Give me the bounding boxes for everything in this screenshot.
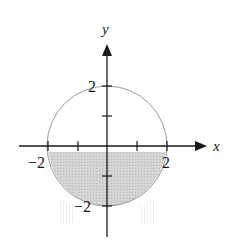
x-axis-label: x (212, 138, 220, 154)
x-tick-label-left: −2 (28, 154, 45, 171)
graph-figure: y x 2 −2 −2 2 (0, 0, 237, 251)
y-tick-label-top: 2 (88, 78, 96, 95)
y-axis-label: y (100, 21, 109, 37)
x-tick-label-right: 2 (162, 154, 170, 171)
y-axis (102, 44, 112, 237)
x-axis-arrow-icon (195, 141, 207, 151)
y-tick-label-bottom: −2 (74, 198, 91, 215)
graph-canvas: y x 2 −2 −2 2 (0, 0, 237, 251)
y-axis-arrow-icon (102, 44, 112, 56)
